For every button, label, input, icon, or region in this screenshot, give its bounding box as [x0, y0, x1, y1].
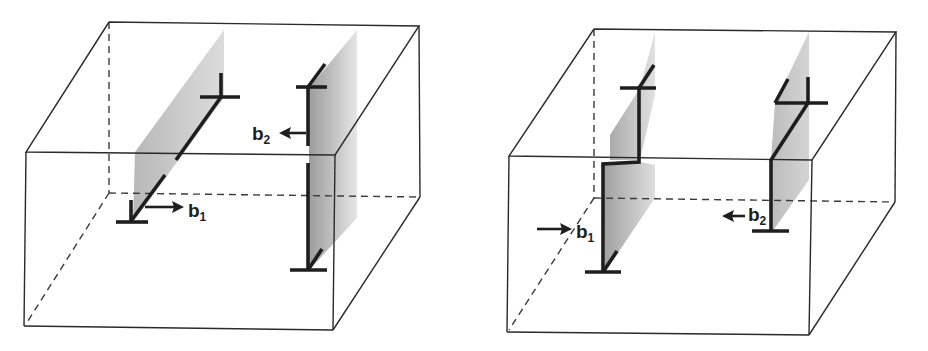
burgers-vector-label-b1-left: b1 — [188, 201, 206, 223]
box-edge — [507, 332, 809, 335]
burgers-vector-label-b2-right: b2 — [748, 205, 766, 227]
slip-plane-1-lower — [603, 162, 655, 272]
box-edge — [419, 26, 420, 197]
burgers-vector-arrow-b1 — [537, 223, 572, 235]
box-edge — [507, 156, 509, 332]
box-edge — [24, 152, 26, 326]
burgers-vector-label-b1-right: b1 — [576, 222, 594, 244]
burgers-vector-arrow-b1 — [145, 201, 184, 213]
box-edge — [24, 326, 333, 330]
slip-plane-2 — [309, 30, 357, 270]
left-panel — [24, 22, 420, 330]
hidden-edge — [509, 198, 594, 330]
burgers-vector-label-b2-left: b2 — [252, 124, 270, 146]
hidden-edge — [26, 193, 109, 324]
right-panel — [507, 29, 896, 335]
burgers-vector-arrow-b2 — [722, 210, 745, 222]
hidden-edge — [109, 193, 420, 197]
figure: b1 b2 b1 b2 — [0, 0, 928, 351]
box-edge — [895, 32, 896, 202]
diagram-canvas — [0, 0, 928, 351]
box-edge — [809, 202, 895, 335]
burgers-vector-arrow-b2 — [279, 127, 306, 139]
box-edge — [809, 160, 812, 335]
box-edge — [509, 29, 896, 160]
slip-plane-1 — [610, 32, 655, 160]
